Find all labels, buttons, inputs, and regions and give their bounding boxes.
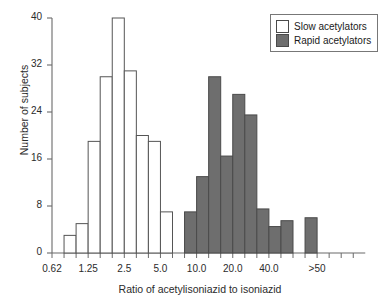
x-tick-label: 20.0 — [213, 263, 253, 274]
histogram-bar-slow — [76, 224, 88, 253]
x-tick-label: 5.0 — [140, 263, 180, 274]
legend-label-rapid: Rapid acetylators — [294, 35, 371, 46]
legend-swatch-slow — [276, 20, 289, 33]
legend-swatch-rapid — [276, 34, 289, 47]
histogram-bar-slow — [124, 71, 136, 253]
y-tick-label: 24 — [20, 105, 42, 116]
legend-item-slow: Slow acetylators — [276, 19, 371, 33]
y-tick-label: 8 — [20, 199, 42, 210]
y-tick-label: 16 — [20, 152, 42, 163]
legend: Slow acetylators Rapid acetylators — [270, 14, 378, 52]
x-tick-label: 10.0 — [177, 263, 217, 274]
x-tick-label: 2.5 — [104, 263, 144, 274]
y-tick-label: 40 — [20, 11, 42, 22]
histogram-bar-rapid — [269, 227, 281, 253]
histogram-bar-slow — [136, 136, 148, 254]
histogram-bar-rapid — [257, 209, 269, 253]
x-tick-label: 0.62 — [32, 263, 72, 274]
x-tick-label: 1.25 — [68, 263, 108, 274]
legend-item-rapid: Rapid acetylators — [276, 33, 371, 47]
y-tick-label: 0 — [20, 246, 42, 257]
histogram-bar-slow — [100, 77, 112, 253]
histogram-bar-rapid — [209, 77, 221, 253]
histogram-bar-rapid — [197, 177, 209, 253]
histogram-bar-rapid — [305, 218, 317, 253]
x-tick-label: 40.0 — [249, 263, 289, 274]
legend-label-slow: Slow acetylators — [294, 21, 367, 32]
x-tick-label: >50 — [297, 263, 337, 274]
histogram-bar-rapid — [233, 94, 245, 253]
histogram-bar-rapid — [221, 156, 233, 253]
y-tick-label: 32 — [20, 58, 42, 69]
histogram-bar-slow — [64, 235, 76, 253]
histogram-bar-rapid — [185, 212, 197, 253]
histogram-figure: Number of subjects Ratio of acetylisonia… — [0, 0, 390, 301]
histogram-bar-slow — [160, 212, 172, 253]
histogram-bar-rapid — [281, 221, 293, 253]
histogram-bar-slow — [148, 141, 160, 253]
histogram-bar-rapid — [245, 115, 257, 253]
histogram-bar-slow — [88, 141, 100, 253]
histogram-bar-slow — [112, 18, 124, 253]
